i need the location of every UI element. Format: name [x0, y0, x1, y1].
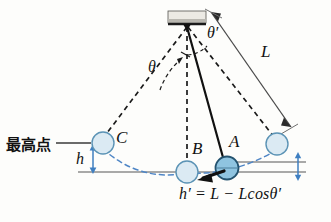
label-formula-h-prime: h′ = L − Lcosθ′ [179, 185, 281, 203]
height-dimension-h-prime [295, 152, 301, 181]
angle-theta-arrowhead [177, 57, 183, 64]
ceiling-support [168, 11, 206, 24]
label-point-b: B [192, 139, 202, 159]
angle-arc-theta [160, 60, 180, 90]
length-dimension-l [205, 9, 298, 134]
label-angle-theta: θ [148, 58, 156, 76]
label-angle-theta-prime: θ′ [207, 24, 218, 42]
pendulum-diagram: 最高点 h C B A θ θ′ L h′ = L − Lcosθ′ [0, 0, 331, 222]
ball-right-extreme [266, 133, 288, 155]
ball-b [176, 161, 198, 183]
string-dashed-to-c [104, 27, 187, 137]
ball-c [92, 132, 114, 154]
diagram-canvas [0, 0, 331, 222]
label-length-l: L [261, 42, 270, 62]
label-highest-point: 最高点 [6, 133, 51, 154]
label-point-a: A [229, 132, 239, 152]
angle-arc-theta-prime [188, 46, 207, 55]
label-height-h: h [76, 150, 84, 168]
label-point-c: C [116, 128, 127, 148]
